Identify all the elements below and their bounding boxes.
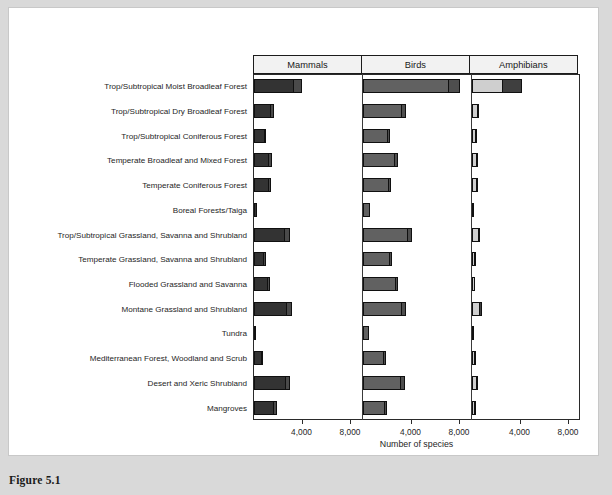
- biome-row: Flooded Grassland and Savanna: [9, 272, 599, 297]
- bar-amphibians: [472, 302, 483, 316]
- biome-row: Mediterranean Forest, Woodland and Scrub: [9, 346, 599, 371]
- biome-label: Trop/Subtropical Dry Broadleaf Forest: [111, 107, 247, 116]
- bar-birds: [363, 203, 370, 217]
- bar-segment-total: [364, 327, 369, 339]
- biome-row: Desert and Xeric Shrubland: [9, 371, 599, 396]
- biome-label: Trop/Subtropical Coniferous Forest: [121, 131, 247, 140]
- bar-mammals: [254, 351, 264, 365]
- panel-header-mammals: Mammals: [253, 55, 362, 74]
- bar-birds: [363, 351, 387, 365]
- bar-amphibians: [472, 153, 479, 167]
- biome-row: Trop/Subtropical Grassland, Savanna and …: [9, 222, 599, 247]
- bar-mammals: [254, 153, 272, 167]
- bar-segment-endemic: [474, 402, 475, 414]
- biome-label: Temperate Coniferous Forest: [142, 181, 247, 190]
- bar-segment-total: [255, 154, 268, 166]
- bar-segment-endemic: [479, 303, 481, 315]
- bar-mammals: [254, 79, 303, 93]
- bar-segment-endemic: [383, 352, 385, 364]
- bar-birds: [363, 129, 390, 143]
- biome-row: Temperate Grassland, Savanna and Shrubla…: [9, 247, 599, 272]
- biome-label: Mangroves: [207, 403, 247, 412]
- bar-birds: [363, 252, 393, 266]
- bar-mammals: [254, 326, 256, 340]
- biome-row: Tundra: [9, 321, 599, 346]
- bar-segment-endemic: [268, 179, 270, 191]
- bar-amphibians: [472, 376, 479, 390]
- bar-segment-total: [364, 80, 448, 92]
- x-axis-tick-label: 4,000: [509, 427, 530, 437]
- figure-page: Mammals Birds Amphibians Trop/Subtropica…: [0, 0, 612, 495]
- bar-segment-total: [364, 253, 390, 265]
- bar-amphibians: [472, 203, 474, 217]
- bar-segment-endemic: [407, 229, 411, 241]
- bar-amphibians: [472, 351, 476, 365]
- bar-birds: [363, 326, 370, 340]
- bar-segment-total: [255, 377, 285, 389]
- x-axis: 4,0008,0004,0008,0004,0008,000: [253, 420, 580, 456]
- biome-label: Mediterranean Forest, Woodland and Scrub: [90, 354, 247, 363]
- panel-header-birds: Birds: [361, 55, 470, 74]
- bar-segment-total: [255, 278, 267, 290]
- bar-segment-total: [255, 229, 284, 241]
- bar-segment-endemic: [400, 377, 404, 389]
- bar-segment-endemic: [389, 253, 391, 265]
- bar-segment-total: [364, 278, 395, 290]
- biome-label: Desert and Xeric Shrubland: [148, 378, 247, 387]
- bar-segment-endemic: [293, 80, 301, 92]
- bar-segment-total: [364, 204, 369, 216]
- bar-segment-endemic: [474, 253, 475, 265]
- bar-rows: Trop/Subtropical Moist Broadleaf ForestT…: [9, 74, 599, 420]
- bar-birds: [363, 228, 413, 242]
- bar-mammals: [254, 277, 270, 291]
- bar-segment-endemic: [264, 130, 266, 142]
- bar-amphibians: [472, 129, 477, 143]
- bar-segment-endemic: [268, 154, 271, 166]
- bar-mammals: [254, 401, 277, 415]
- bar-segment-endemic: [474, 352, 475, 364]
- biome-row: Trop/Subtropical Moist Broadleaf Forest: [9, 74, 599, 99]
- x-axis-tick: [459, 420, 460, 424]
- bar-birds: [363, 376, 405, 390]
- bar-segment-total: [364, 130, 387, 142]
- x-axis-tick: [568, 420, 569, 424]
- x-axis-tick: [302, 420, 303, 424]
- biome-label: Boreal Forests/Taiga: [173, 205, 247, 214]
- bar-segment-total: [364, 105, 402, 117]
- x-axis-tick: [520, 420, 521, 424]
- bar-segment-total: [255, 402, 273, 414]
- bar-amphibians: [472, 104, 480, 118]
- bar-segment-total: [364, 179, 388, 191]
- bar-segment-total: [255, 253, 264, 265]
- bar-birds: [363, 79, 460, 93]
- figure-caption: Figure 5.1: [9, 474, 61, 486]
- bar-birds: [363, 401, 388, 415]
- bar-segment-total: [255, 80, 293, 92]
- bar-amphibians: [472, 228, 481, 242]
- biome-row: Temperate Broadleaf and Mixed Forest: [9, 148, 599, 173]
- biome-row: Trop/Subtropical Coniferous Forest: [9, 123, 599, 148]
- bar-birds: [363, 302, 406, 316]
- bar-segment-endemic: [401, 105, 405, 117]
- bar-amphibians: [472, 178, 478, 192]
- bar-segment-endemic: [477, 105, 478, 117]
- x-axis-tick-label: 4,000: [291, 427, 312, 437]
- x-axis-tick-label: 8,000: [340, 427, 361, 437]
- panel-header-amphibians: Amphibians: [469, 55, 578, 74]
- bar-mammals: [254, 104, 275, 118]
- biome-row: Mangroves: [9, 395, 599, 420]
- bar-segment-endemic: [285, 377, 290, 389]
- bar-segment-total: [255, 204, 257, 216]
- bar-amphibians: [472, 326, 474, 340]
- bar-segment-endemic: [286, 303, 291, 315]
- bar-amphibians: [472, 277, 476, 291]
- bar-segment-total: [364, 303, 401, 315]
- biome-label: Flooded Grassland and Savanna: [129, 280, 247, 289]
- bar-segment-endemic: [384, 402, 386, 414]
- bar-amphibians: [472, 79, 523, 93]
- bar-segment-endemic: [270, 105, 273, 117]
- species-by-biome-chart: Mammals Birds Amphibians Trop/Subtropica…: [9, 8, 599, 456]
- bar-segment-total: [473, 278, 475, 290]
- bar-mammals: [254, 129, 267, 143]
- x-axis-tick-label: 8,000: [558, 427, 579, 437]
